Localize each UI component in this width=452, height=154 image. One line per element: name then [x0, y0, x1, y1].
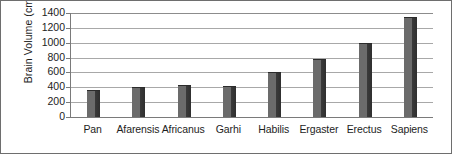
y-axis-tick-label-400: 400 — [27, 81, 65, 92]
bar-afarensis — [132, 87, 145, 117]
gridline-1400 — [71, 13, 433, 14]
gridline-200 — [71, 102, 433, 103]
bar-pan — [87, 90, 100, 117]
y-axis-tick-label-800: 800 — [27, 52, 65, 63]
bar-africanus — [178, 85, 191, 117]
gridline-400 — [71, 87, 433, 88]
x-axis-tick-label-erectus: Erectus — [347, 123, 382, 135]
bar-chart: Brain Volume (cm3) 020040060080010001200… — [0, 0, 452, 154]
bar-erectus — [359, 43, 372, 117]
bar-sapiens — [404, 17, 417, 117]
x-axis-tick-label-garhi: Garhi — [216, 123, 241, 135]
plot-area — [70, 13, 433, 118]
gridline-600 — [71, 72, 433, 73]
x-axis-tick-label-sapiens: Sapiens — [391, 123, 428, 135]
y-axis-tick-label-200: 200 — [27, 96, 65, 107]
bar-ergaster — [313, 59, 326, 117]
y-axis-tick-label-0: 0 — [27, 111, 65, 122]
y-axis-tick-label-1200: 1200 — [27, 22, 65, 33]
y-axis-tick-label-600: 600 — [27, 66, 65, 77]
gridline-800 — [71, 58, 433, 59]
x-axis-tick-label-africanus: Africanus — [162, 123, 205, 135]
gridline-1200 — [71, 28, 433, 29]
bar-garhi — [223, 86, 236, 117]
x-axis-tick-label-habilis: Habilis — [258, 123, 289, 135]
x-axis-tick-label-ergaster: Ergaster — [299, 123, 338, 135]
gridline-1000 — [71, 43, 433, 44]
y-axis-tick-label-1000: 1000 — [27, 37, 65, 48]
x-axis-tick-label-pan: Pan — [83, 123, 101, 135]
x-axis-tick-label-afarensis: Afarensis — [116, 123, 159, 135]
bar-habilis — [268, 72, 281, 117]
y-axis-tick-label-1400: 1400 — [27, 7, 65, 18]
